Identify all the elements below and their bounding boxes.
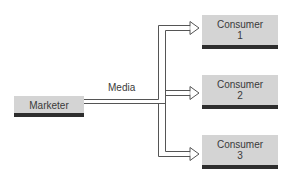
consumer-3-label: Consumer bbox=[217, 139, 263, 150]
arrowhead-consumer-3 bbox=[190, 148, 199, 161]
consumer-1-box: Consumer 1 bbox=[202, 15, 278, 49]
consumer-2-label: Consumer bbox=[217, 79, 263, 90]
consumer-2-box-bar bbox=[202, 105, 278, 109]
arrowhead-consumer-1 bbox=[190, 22, 199, 35]
consumer-1-number: 1 bbox=[217, 30, 263, 41]
consumer-3-box: Consumer 3 bbox=[202, 135, 278, 169]
marketer-box: Marketer bbox=[14, 96, 84, 117]
consumer-2-box: Consumer 2 bbox=[202, 75, 278, 109]
media-label: Media bbox=[108, 82, 135, 93]
arrowhead-consumer-2 bbox=[190, 87, 199, 100]
consumer-1-box-bar bbox=[202, 45, 278, 49]
consumer-3-number: 3 bbox=[217, 150, 263, 161]
marketer-label: Marketer bbox=[29, 100, 68, 111]
marketer-box-bar bbox=[14, 113, 84, 117]
consumer-2-number: 2 bbox=[217, 90, 263, 101]
consumer-3-box-bar bbox=[202, 165, 278, 169]
consumer-1-label: Consumer bbox=[217, 19, 263, 30]
